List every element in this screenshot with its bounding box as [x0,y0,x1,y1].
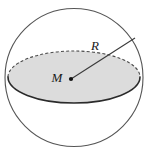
center-point-dot [69,77,73,81]
sphere-diagram-canvas: M R [0,0,148,154]
radius-label-r: R [90,38,99,53]
center-label-m: M [51,70,64,85]
sphere-diagram-figure: M R [0,0,148,154]
